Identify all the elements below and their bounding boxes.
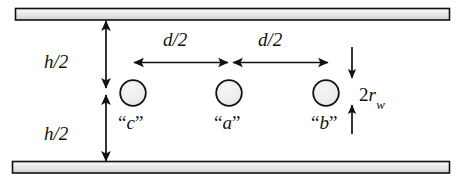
close-quote-a: ” <box>232 112 240 133</box>
label-wire-diameter-number: 2 <box>359 84 369 105</box>
top-plate <box>16 9 450 21</box>
label-d-half-left: d/2 <box>163 30 187 49</box>
label-h-half-bottom: h/2 <box>44 124 68 143</box>
close-quote-b: ” <box>329 112 337 133</box>
bottom-plate <box>13 162 450 174</box>
diagram-canvas <box>0 0 459 188</box>
label-wire-diameter-symbol: r <box>369 84 376 105</box>
label-wire-b-letter: b <box>319 112 329 133</box>
wire-circle-b <box>313 80 339 106</box>
label-wire-diameter: 2rw <box>359 85 385 109</box>
wire-circle-c <box>120 80 146 106</box>
label-wire-b: “b” <box>311 113 337 132</box>
label-wire-diameter-subscript: w <box>376 97 385 112</box>
label-h-half-top: h/2 <box>44 52 68 71</box>
wire-channel-diagram: h/2 h/2 d/2 d/2 2rw “c” “a” “b” <box>0 0 459 188</box>
label-d-half-right: d/2 <box>258 30 282 49</box>
label-wire-a-letter: a <box>222 112 232 133</box>
label-wire-c-letter: c <box>126 112 134 133</box>
wire-circle-a <box>216 80 242 106</box>
label-wire-c: “c” <box>118 113 143 132</box>
label-wire-a: “a” <box>214 113 240 132</box>
close-quote-c: ” <box>135 112 143 133</box>
